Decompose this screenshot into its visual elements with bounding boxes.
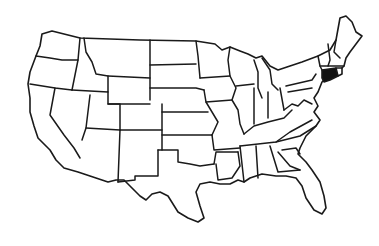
us-map <box>0 0 379 246</box>
us-outline <box>28 16 362 222</box>
state-rhode-island <box>336 68 342 76</box>
state-connecticut <box>322 68 338 82</box>
